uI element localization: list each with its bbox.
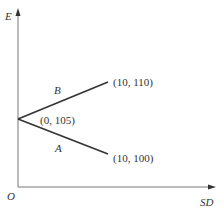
point-b-end-label: (10, 110) [113,76,153,89]
y-axis-label: E [4,10,12,22]
y-axis-arrow-icon [16,8,21,16]
efficient-frontier-diagram: E SD O B A (0, 105) (10, 110) (10, 100) [0,0,224,212]
point-start-label: (0, 105) [40,114,75,127]
line-b-label: B [54,84,61,96]
origin-label: O [7,190,15,202]
x-axis-arrow-icon [208,185,216,190]
line-a-label: A [54,142,62,154]
x-axis-label: SD [200,196,214,208]
point-a-end-label: (10, 100) [113,152,154,165]
